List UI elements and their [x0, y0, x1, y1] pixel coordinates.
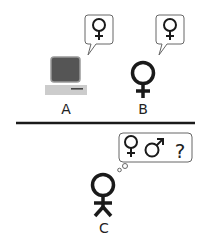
computer-icon	[45, 57, 87, 95]
participant-c: ? C	[93, 133, 193, 236]
right-leg	[103, 207, 111, 216]
label-c: C	[99, 220, 109, 236]
label-b: B	[138, 101, 148, 117]
woman-female-symbol-icon	[133, 63, 154, 99]
speech-bubble-b	[156, 15, 184, 55]
thought-dot-small	[118, 168, 122, 172]
head	[93, 175, 114, 196]
question-mark: ?	[175, 139, 186, 163]
participant-b: B	[133, 15, 185, 117]
thought-bubble-c: ?	[118, 133, 192, 172]
interrogator-figure-icon	[93, 175, 114, 217]
turing-test-diagram: A B	[0, 0, 206, 247]
disk-slot	[71, 88, 83, 90]
label-a: A	[61, 101, 71, 117]
participant-a: A	[45, 15, 113, 117]
monitor	[51, 57, 80, 82]
speech-bubble-a	[85, 15, 113, 55]
left-leg	[95, 207, 103, 216]
computer-base	[45, 85, 87, 95]
thought-dot-large	[123, 164, 128, 169]
